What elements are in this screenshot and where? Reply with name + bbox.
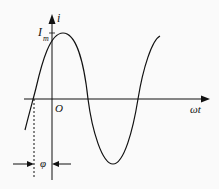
- sine-wave-diagram: i ωt O I m φ: [0, 0, 219, 189]
- x-axis-label: ωt: [190, 103, 202, 115]
- y-axis-arrow-icon: [49, 14, 56, 24]
- amplitude-subscript: m: [43, 34, 49, 43]
- origin-label: O: [55, 102, 63, 114]
- phase-arrow-left-icon: [27, 161, 34, 167]
- x-axis-arrow-icon: [201, 96, 210, 103]
- phase-label: φ: [40, 157, 46, 169]
- phase-arrow-right-icon: [52, 161, 59, 167]
- y-axis-label: i: [57, 11, 60, 25]
